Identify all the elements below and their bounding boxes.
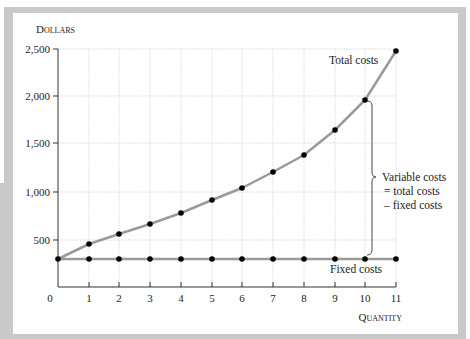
variable-costs-brace [367,101,376,255]
total-costs-line [58,51,396,259]
grid-lines [58,49,396,287]
y-tick-1500: 1,500 [25,137,50,149]
total-costs-markers [86,48,399,247]
y-tick-2500: 2,500 [25,43,50,55]
variable-costs-label-line1: Variable costs [382,171,447,183]
x-tick-0: 0 [47,292,53,304]
x-tick-labels: 0 1 2 3 4 5 6 7 8 9 10 11 [47,292,401,304]
y-axis-title: DOLLARS [36,23,75,35]
variable-costs-label-line3: – fixed costs [383,199,443,211]
variable-costs-label-line2: = total costs [384,185,440,197]
axes [53,49,396,287]
x-tick-8: 8 [301,292,307,304]
x-axis-title: QUANTITY [359,311,403,323]
x-tick-9: 9 [332,292,338,304]
total-costs-label: Total costs [329,54,379,66]
x-tick-2: 2 [116,292,122,304]
x-tick-6: 6 [239,292,245,304]
x-tick-5: 5 [209,292,215,304]
x-tick-3: 3 [147,292,153,304]
x-tick-10: 10 [360,292,372,304]
x-tick-11: 11 [391,292,402,304]
fixed-costs-label: Fixed costs [330,263,383,275]
y-tick-500: 500 [34,234,51,246]
y-tick-labels: 2,500 2,000 1,500 1,000 500 [25,43,50,246]
x-tick-4: 4 [178,292,184,304]
cost-chart: 2,500 2,000 1,500 1,000 500 0 1 2 3 4 5 … [0,0,470,339]
x-tick-7: 7 [270,292,276,304]
y-tick-2000: 2,000 [25,90,50,102]
x-tick-1: 1 [86,292,92,304]
y-tick-1000: 1,000 [25,186,50,198]
